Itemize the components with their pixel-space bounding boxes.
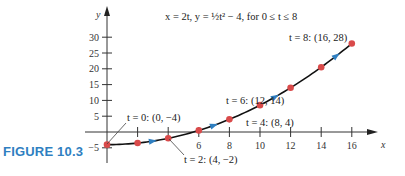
x-tick-label: 12 [286, 140, 296, 151]
curve-point [104, 141, 111, 148]
y-tick-label: 25 [89, 48, 99, 59]
curve-point [349, 40, 356, 47]
x-tick-label: 8 [227, 140, 232, 151]
equation-label: x = 2t, y = ½t² − 4, for 0 ≤ t ≤ 8 [165, 11, 297, 22]
y-tick-label: 20 [89, 63, 99, 74]
annotation-t2: t = 2: (4, −2) [184, 154, 238, 166]
curve-point [287, 84, 294, 91]
direction-arrow-icon [209, 121, 219, 129]
annotation-t8: t = 8: (16, 28) [289, 32, 348, 44]
curve-point [226, 116, 233, 123]
y-tick-label: 10 [89, 95, 99, 106]
leader-line-t0 [107, 123, 126, 144]
x-tick-label: 14 [316, 140, 326, 151]
y-axis-label: y [95, 9, 101, 20]
figure-caption: FIGURE 10.3 [3, 144, 83, 159]
y-axis: y −551015202530 [88, 6, 112, 163]
y-tick-label: −5 [88, 142, 99, 153]
curve-point [318, 64, 325, 71]
y-tick-label: 5 [94, 111, 99, 122]
y-tick-label: 15 [89, 79, 99, 90]
x-tick-label: 16 [347, 140, 357, 151]
y-tick-label: 30 [89, 32, 99, 43]
x-axis: x 6810121416 [85, 127, 386, 151]
leader-line-t2 [169, 139, 184, 155]
annotation-t0: t = 0: (0, −4) [127, 112, 181, 124]
x-axis-label: x [380, 139, 386, 150]
annotation-t4: t = 4: (8, 4) [246, 117, 294, 129]
curve-point [134, 140, 141, 147]
y-axis-arrow-icon [104, 6, 110, 16]
x-tick-label: 6 [196, 140, 201, 151]
annotation-t6: t = 6: (12, 14) [226, 95, 285, 107]
curve-point [196, 127, 203, 134]
x-axis-arrow-icon [367, 129, 378, 135]
x-tick-label: 10 [255, 140, 265, 151]
